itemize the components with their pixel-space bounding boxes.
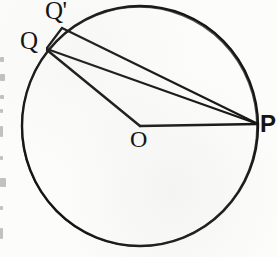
segment-q-o xyxy=(47,50,140,126)
segment-o-p xyxy=(140,124,258,126)
point-label-q: Q xyxy=(20,28,38,53)
point-label-q-prime: Q' xyxy=(45,0,67,23)
segment-q-p xyxy=(47,49,258,124)
segment-qprime-p xyxy=(62,28,258,124)
point-label-o: O xyxy=(130,127,147,151)
point-label-p: P xyxy=(260,112,276,136)
diagram-page: Q Q' O P xyxy=(0,0,277,257)
